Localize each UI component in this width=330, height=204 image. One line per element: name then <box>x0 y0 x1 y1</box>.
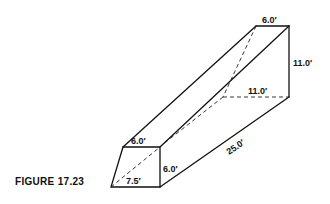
dim-front-bottom: 7.5′ <box>126 176 141 186</box>
dim-back-bottom: 11.0′ <box>248 86 267 96</box>
bottom-right-edge <box>160 97 289 187</box>
bottom-left-hidden-edge <box>162 97 223 145</box>
dim-front-height: 6.0′ <box>163 164 178 174</box>
top-left-edge <box>123 26 256 147</box>
dim-front-top: 6.0′ <box>131 136 146 146</box>
top-right-edge <box>160 26 289 147</box>
figure-caption: FIGURE 17.23 <box>15 176 84 187</box>
trench-diagram: 6.0′ 6.0′ 7.5′ 25.0′ 6.0′ 11.0′ 11.0′ <box>0 0 330 204</box>
dim-back-height: 11.0′ <box>293 58 312 68</box>
figure-canvas: 6.0′ 6.0′ 7.5′ 25.0′ 6.0′ 11.0′ 11.0′ FI… <box>0 0 330 204</box>
dim-back-top: 6.0′ <box>262 15 277 25</box>
